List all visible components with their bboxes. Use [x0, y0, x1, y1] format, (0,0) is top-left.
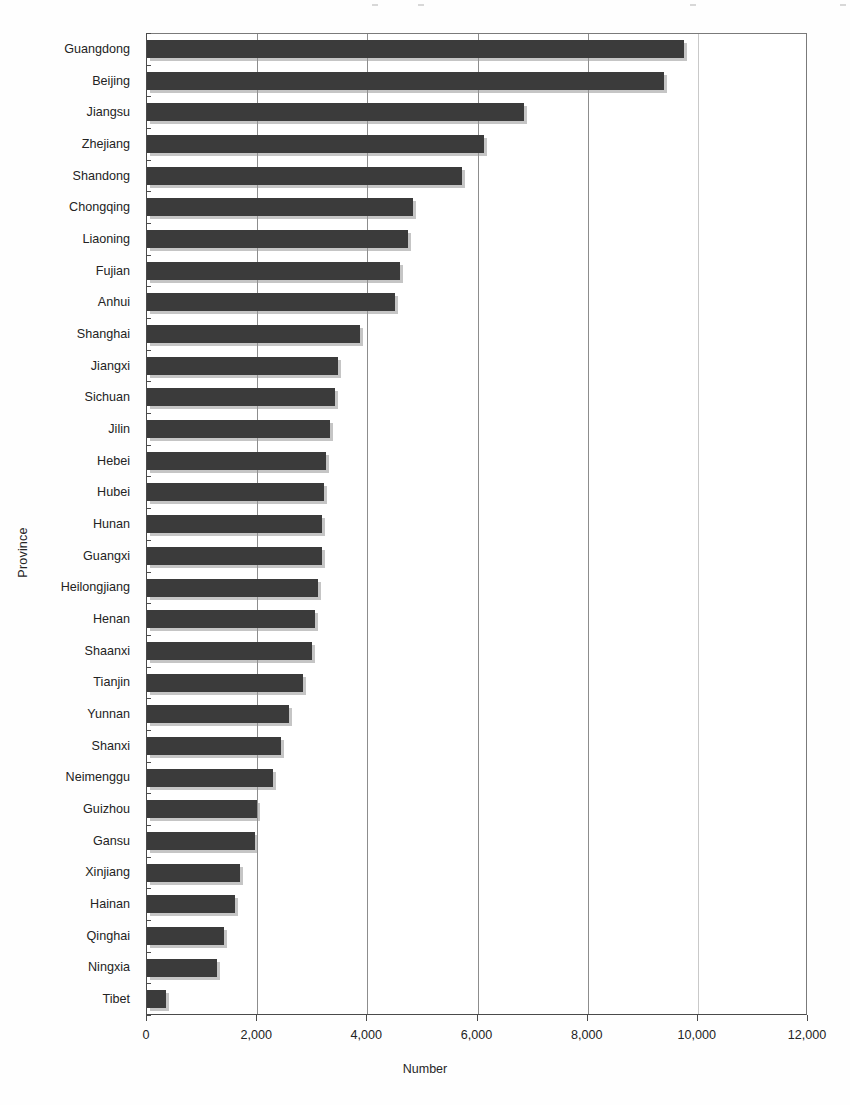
bar-jilin[interactable]	[147, 420, 330, 438]
bar-beijing[interactable]	[147, 72, 664, 90]
x-tick-label-2000: 2,000	[240, 1028, 272, 1042]
y-tick-mark	[146, 635, 151, 636]
x-tick-label-6000: 6,000	[461, 1028, 493, 1042]
bar-xinjiang[interactable]	[147, 864, 240, 882]
bar-liaoning[interactable]	[147, 230, 408, 248]
bar-row	[147, 794, 806, 826]
y-tick-label-guangdong: Guangdong	[64, 33, 130, 65]
scan-artifact	[418, 4, 424, 6]
y-tick-mark	[146, 1015, 151, 1016]
bar-shandong[interactable]	[147, 167, 462, 185]
y-tick-label-heilongjiang: Heilongjiang	[61, 572, 130, 604]
y-tick-label-jiangxi: Jiangxi	[91, 350, 130, 382]
x-axis-title: Number	[0, 1062, 850, 1076]
y-tick-label-hubei: Hubei	[97, 476, 130, 508]
y-tick-mark	[146, 160, 151, 161]
bar-ningxia[interactable]	[147, 959, 217, 977]
bar-yunnan[interactable]	[147, 705, 289, 723]
x-tick-mark-10000	[697, 1015, 698, 1021]
bar-zhejiang[interactable]	[147, 135, 484, 153]
y-tick-label-ningxia: Ningxia	[88, 952, 130, 984]
y-tick-label-anhui: Anhui	[98, 286, 130, 318]
y-tick-mark	[146, 983, 151, 984]
bar-row	[147, 319, 806, 351]
bar-tianjin[interactable]	[147, 674, 303, 692]
y-tick-label-liaoning: Liaoning	[82, 223, 130, 255]
bar-jiangxi[interactable]	[147, 357, 338, 375]
y-tick-mark	[146, 540, 151, 541]
y-tick-label-hebei: Hebei	[97, 445, 130, 477]
bar-row	[147, 414, 806, 446]
y-tick-mark	[146, 381, 151, 382]
y-tick-mark	[146, 698, 151, 699]
y-tick-mark	[146, 572, 151, 573]
bar-row	[147, 889, 806, 921]
bar-neimenggu[interactable]	[147, 769, 273, 787]
bar-shaanxi[interactable]	[147, 642, 312, 660]
scan-artifact	[690, 4, 696, 6]
y-tick-mark	[146, 825, 151, 826]
y-tick-label-beijing: Beijing	[92, 65, 130, 97]
y-tick-label-xinjiang: Xinjiang	[85, 857, 130, 889]
y-tick-label-jilin: Jilin	[108, 413, 130, 445]
bar-hainan[interactable]	[147, 895, 235, 913]
bar-row	[147, 984, 806, 1016]
bar-row	[147, 826, 806, 858]
bar-hunan[interactable]	[147, 515, 322, 533]
y-tick-label-shaanxi: Shaanxi	[84, 635, 130, 667]
x-tick-mark-2000	[256, 1015, 257, 1021]
y-tick-mark	[146, 413, 151, 414]
bar-shanghai[interactable]	[147, 325, 360, 343]
x-tick-label-8000: 8,000	[571, 1028, 603, 1042]
x-tick-label-12000: 12,000	[788, 1028, 827, 1042]
y-tick-label-fujian: Fujian	[96, 255, 130, 287]
bar-hubei[interactable]	[147, 483, 324, 501]
bar-row	[147, 192, 806, 224]
bar-row	[147, 636, 806, 668]
bar-row	[147, 541, 806, 573]
x-tick-mark-4000	[366, 1015, 367, 1021]
bar-row	[147, 573, 806, 605]
bar-anhui[interactable]	[147, 293, 395, 311]
y-tick-mark	[146, 65, 151, 66]
y-tick-label-guizhou: Guizhou	[83, 793, 130, 825]
y-axis-tick-labels: GuangdongBeijingJiangsuZhejiangShandongC…	[0, 33, 140, 1015]
bar-row	[147, 224, 806, 256]
bar-row	[147, 256, 806, 288]
bar-row	[147, 34, 806, 66]
bar-henan[interactable]	[147, 610, 315, 628]
bar-guangdong[interactable]	[147, 40, 684, 58]
y-tick-mark	[146, 191, 151, 192]
y-tick-label-tibet: Tibet	[102, 983, 130, 1015]
bar-sichuan[interactable]	[147, 388, 335, 406]
x-tick-mark-6000	[477, 1015, 478, 1021]
y-tick-label-chongqing: Chongqing	[69, 191, 130, 223]
y-tick-mark	[146, 603, 151, 604]
bar-hebei[interactable]	[147, 452, 326, 470]
y-tick-label-guangxi: Guangxi	[83, 540, 130, 572]
bar-shanxi[interactable]	[147, 737, 281, 755]
bar-guizhou[interactable]	[147, 800, 257, 818]
bar-qinghai[interactable]	[147, 927, 224, 945]
y-tick-label-jiangsu: Jiangsu	[87, 96, 130, 128]
bar-chongqing[interactable]	[147, 198, 413, 216]
bar-row	[147, 477, 806, 509]
bar-row	[147, 97, 806, 129]
y-tick-label-hunan: Hunan	[93, 508, 130, 540]
bar-row	[147, 731, 806, 763]
bar-jiangsu[interactable]	[147, 103, 524, 121]
y-tick-mark	[146, 128, 151, 129]
bar-fujian[interactable]	[147, 262, 400, 280]
y-tick-mark	[146, 223, 151, 224]
bar-guangxi[interactable]	[147, 547, 322, 565]
bar-row	[147, 382, 806, 414]
y-tick-mark	[146, 920, 151, 921]
bar-row	[147, 287, 806, 319]
y-tick-label-shanghai: Shanghai	[77, 318, 130, 350]
bar-tibet[interactable]	[147, 990, 166, 1008]
bar-gansu[interactable]	[147, 832, 255, 850]
y-tick-mark	[146, 952, 151, 953]
scan-artifact	[840, 4, 846, 6]
bar-heilongjiang[interactable]	[147, 579, 318, 597]
y-tick-label-neimenggu: Neimenggu	[66, 762, 130, 794]
